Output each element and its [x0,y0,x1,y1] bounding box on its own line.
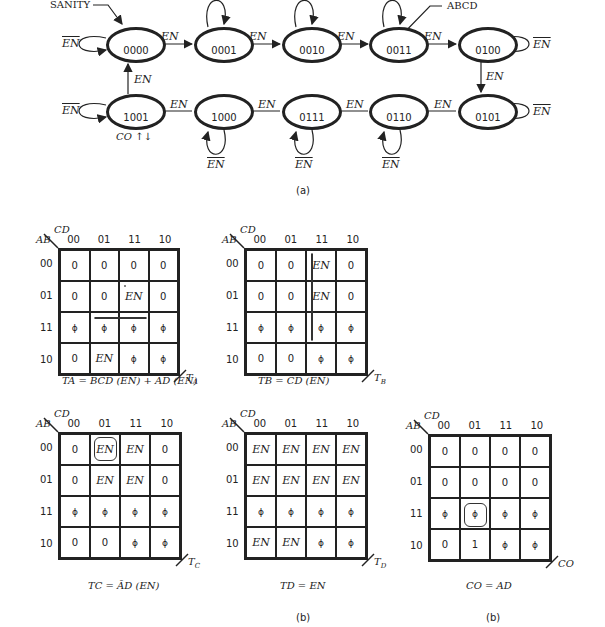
row-header: 10 [410,540,423,551]
kmap-cell: 0 [520,467,550,498]
kmap-cell: 0 [460,467,490,498]
col-header: 01 [469,420,482,431]
kmap-cell: ϕ [520,529,550,560]
row-header: 01 [410,476,423,487]
kmap-cell: ϕ [460,498,490,529]
kmap-cell: 0 [490,436,520,467]
kmap-cell: 0 [430,467,460,498]
kmap-cell: 0 [460,436,490,467]
figure-label-b-co: (b) [486,612,500,623]
kmap-cell: ϕ [490,498,520,529]
kmap-cell: ϕ [430,498,460,529]
kmap-cell: ϕ [520,498,550,529]
col-header: 10 [531,420,544,431]
row-header: 11 [410,508,423,519]
row-var-label: AB [406,420,421,431]
kmap-cell: ϕ [490,529,520,560]
kmap-cell: 1 [460,529,490,560]
kmap-cell: 0 [490,467,520,498]
col-header: 11 [500,420,513,431]
kmap-cell: 0 [430,436,460,467]
kmap-cell: 0 [430,529,460,560]
figure-label-b: (b) [296,612,310,623]
kmap-cell: 0 [520,436,550,467]
col-header: 00 [438,420,451,431]
kmap-output-label: CO [558,558,574,569]
row-header: 00 [410,444,423,455]
kmap-equation: CO = AD [466,580,512,591]
kmap-grid: 00000000ϕϕϕϕ01ϕϕ [428,434,552,562]
